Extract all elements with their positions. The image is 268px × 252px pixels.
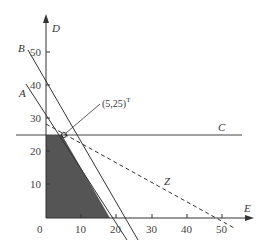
x-tick-50: 50 — [216, 223, 228, 235]
x-tick-20: 20 — [110, 223, 122, 235]
lp-diagram: 50 40 30 20 10 0 10 20 30 40 50 D E B A … — [0, 0, 268, 252]
y-tick-30: 30 — [30, 112, 42, 124]
x-axis-label: E — [243, 202, 251, 214]
x-tick-0: 0 — [37, 223, 43, 235]
y-axis-label: D — [51, 22, 60, 34]
y-axis-arrow-icon — [43, 14, 49, 23]
x-tick-40: 40 — [181, 223, 193, 235]
line-c-label: C — [218, 121, 226, 133]
line-z-label: Z — [164, 175, 171, 187]
optimal-point-label: (5,25)T — [102, 96, 131, 110]
feasible-region — [46, 135, 110, 218]
optimal-point-leader — [66, 104, 100, 133]
y-tick-50: 50 — [30, 46, 42, 58]
x-tick-30: 30 — [146, 223, 158, 235]
y-tick-40: 40 — [30, 79, 42, 91]
x-tick-10: 10 — [75, 223, 87, 235]
line-b-label: B — [18, 42, 25, 54]
line-a-label: A — [18, 87, 26, 99]
y-tick-20: 20 — [30, 145, 42, 157]
x-axis-arrow-icon — [245, 215, 254, 221]
y-tick-10: 10 — [30, 178, 42, 190]
